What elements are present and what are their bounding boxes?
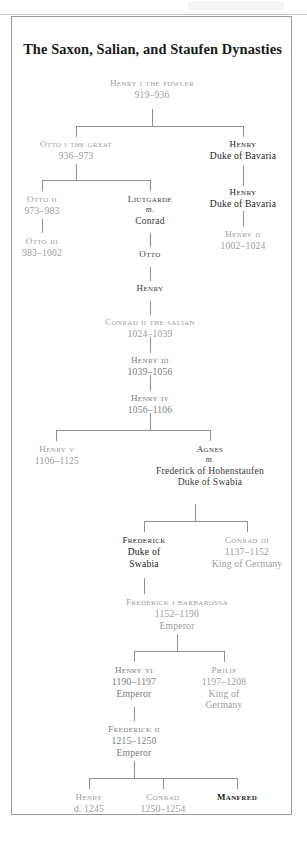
node-title-l2: Swabia [104,558,184,569]
node-reign: 1215–1250 [64,735,204,746]
node-name: Frederick II [64,721,204,735]
connector-to-henry-d1245 [89,778,90,789]
connector-to-otto2 [42,180,43,191]
node-title-l1: King of [184,688,264,699]
connector-henry1-siblings [76,126,243,127]
marriage-mark: m. [110,205,190,215]
page-top-rule [0,14,307,15]
connector-frederick-barbarossa [144,578,145,594]
node-henry-i-the-fowler: Henry I the Fowler 919–936 [52,75,252,101]
node-reign: 1002–1024 [198,240,288,251]
node-reign: 1024–1039 [50,328,250,339]
marriage-mark: m. [110,455,307,465]
node-liutgarde: Liutgarde m. Conrad [110,191,190,226]
node-reign: 1250–1254 [124,803,202,814]
genealogy-figure: The Saxon, Salian, and Staufen Dynasties [11,16,292,815]
node-henry-duke-of-bavaria-2: Henry Duke of Bavaria [188,184,298,210]
node-otto-iii: Otto III 983–1002 [12,233,72,259]
node-name: Frederick [104,532,184,546]
node-henry-iv: Henry IV 1056–1106 [90,390,210,416]
node-name: Henry I the Fowler [52,75,252,89]
node-reign: 973–983 [12,205,72,216]
node-title: Emperor [64,747,204,758]
node-spouse: Conrad [110,215,190,226]
node-name: Conrad II the Salian [50,314,250,328]
node-name: Otto II [12,191,72,205]
node-reign: d. 1245 [52,803,126,814]
node-name: Conrad III [192,532,302,546]
node-otto-i-the-great: Otto I the Great 936–973 [12,136,140,162]
connector-to-frederick-swabia [144,521,145,532]
node-reign: 1190–1197 [84,676,184,687]
node-reign: 1056–1106 [90,404,210,415]
node-reign: 983–1002 [12,247,72,258]
page-scan-artifact [188,1,284,10]
node-title-l2: Germany [184,699,264,710]
node-reign: 1039–1056 [90,366,210,377]
node-name: Liutgarde [110,191,190,205]
node-reign: 1106–1125 [12,455,102,466]
connector-to-henry5 [56,430,57,441]
connector-otto2-otto3 [42,219,43,233]
node-name: Otto III [12,233,72,247]
node-name: Henry III [90,352,210,366]
node-name: Henry V [12,441,102,455]
connector-henry-conrad2 [150,301,151,315]
node-title: Duke of Bavaria [188,198,298,209]
node-reign: 1152–1190 [77,608,277,619]
node-henry-d-1245: Henry d. 1245 [52,789,126,815]
node-name: Philip [184,662,264,676]
node-spouse-title: Duke of Swabia [110,476,307,487]
connector-agnes-siblings [144,521,247,522]
node-reign: 1197–1208 [184,676,264,687]
connector-to-agnes [210,430,211,441]
connector-barbarossa-down [177,634,178,651]
node-title: Emperor [77,620,277,631]
connector-to-manfred [237,778,238,789]
node-henry-v: Henry V 1106–1125 [12,441,102,467]
connector-otto-henry [150,267,151,281]
node-name: Manfred [200,789,274,803]
node-otto-ii: Otto II 973–983 [12,191,72,217]
connector-to-liutgarde [150,180,151,191]
connector-to-conrad-last [163,778,164,789]
node-reign: 1137–1152 [192,546,302,557]
node-name: Agnes [110,441,307,455]
node-henry-duke-of-bavaria-1: Henry Duke of Bavaria [188,136,298,162]
node-name: Frederick I Barbarossa [77,594,277,608]
connector-bavaria2-henry2 [243,211,244,227]
connector-bavaria1-bavaria2 [243,165,244,186]
connector-otto1-down [76,164,77,180]
node-title: Duke of Bavaria [188,150,298,161]
node-name: Henry II [198,226,288,240]
node-henry-iii: Henry III 1039–1056 [90,352,210,378]
node-conrad-last: Conrad 1250–1254 [124,789,202,815]
node-name: Otto [110,246,190,260]
node-name: Henry IV [90,390,210,404]
page-title: The Saxon, Salian, and Staufen Dynasties [12,41,293,58]
node-name: Henry [110,280,190,294]
node-frederick-i-barbarossa: Frederick I Barbarossa 1152–1190 Emperor [77,594,277,631]
node-name: Henry VI [84,662,184,676]
node-henry-son: Henry [110,280,190,294]
node-conrad-ii-the-salian: Conrad II the Salian 1024–1039 [50,314,250,340]
node-title-l1: Duke of [104,546,184,557]
connector-henry4-siblings [56,430,210,431]
node-conrad-iii: Conrad III 1137–1152 King of Germany [192,532,302,569]
connector-frederick2-down [134,761,135,778]
node-manfred: Manfred [200,789,274,803]
node-otto-son: Otto [110,246,190,260]
node-name: Otto I the Great [12,136,140,150]
node-philip: Philip 1197–1208 King of Germany [184,662,264,710]
connector-to-conrad3 [247,521,248,532]
node-title: Emperor [84,688,184,699]
connector-henry4-down [150,413,151,430]
connector-henry1-down [152,109,153,126]
node-name: Henry [188,184,298,198]
connector-to-henry6 [134,651,135,662]
connector-to-philip [224,651,225,662]
connector-barbarossa-siblings [134,651,224,652]
connector-agnes-down [195,504,196,521]
connector-henry6-frederick2 [134,707,135,721]
node-frederick-ii: Frederick II 1215–1250 Emperor [64,721,204,758]
